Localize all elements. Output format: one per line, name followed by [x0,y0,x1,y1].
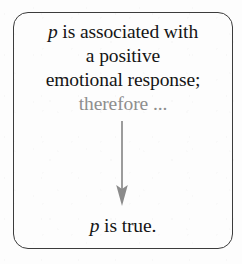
premise-text-block: p is associated with a positive emotiona… [13,20,233,116]
premise-line-1: p is associated with [13,20,233,44]
premise-line-1-text: is associated with [58,21,199,42]
premise-line-2: a positive [13,44,233,68]
conclusion-line-text: is true. [99,215,156,236]
argument-diagram: p is associated with a positive emotiona… [0,0,242,264]
conclusion-text-block: p is true. [13,214,233,238]
premise-line-3: emotional response; [13,68,233,92]
conclusion-variable-p: p [90,215,100,236]
proposition-variable-p: p [48,21,58,42]
premise-line-4-therefore: therefore ... [13,92,233,116]
conclusion-line: p is true. [13,214,233,238]
downward-arrow-icon [108,118,136,210]
